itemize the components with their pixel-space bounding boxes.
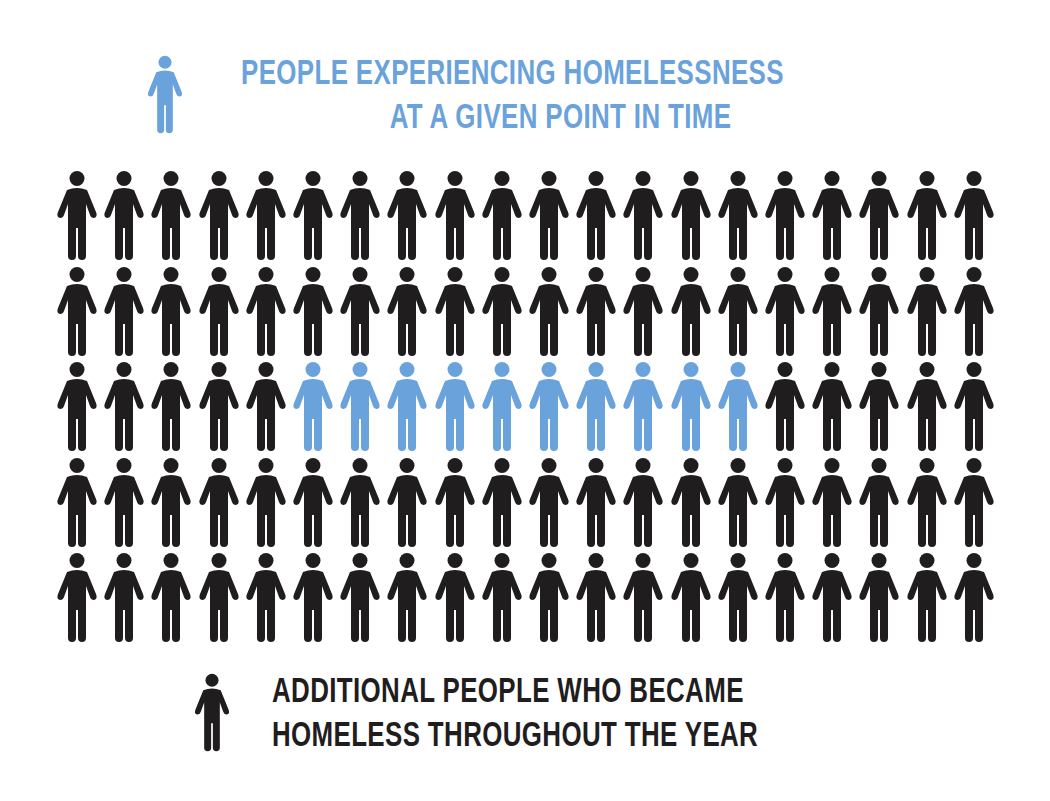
legend-point-in-time-label: PEOPLE EXPERIENCING HOMELESSNESS AT A GI…: [241, 50, 784, 138]
legend-bottom-line-2: HOMELESS THROUGHOUT THE YEAR: [272, 712, 758, 756]
person-icon-additional: [904, 552, 950, 642]
person-icon-additional: [54, 457, 100, 547]
legend-additional: ADDITIONAL PEOPLE WHO BECAME HOMELESS TH…: [192, 668, 929, 756]
person-icon-additional: [101, 266, 147, 356]
person-icon-additional: [479, 266, 525, 356]
person-icon-additional: [290, 457, 336, 547]
person-icon-additional: [809, 552, 855, 642]
pictogram-row: [54, 361, 1000, 451]
person-icon-additional: [290, 552, 336, 642]
pictogram-row: [54, 266, 1000, 356]
legend-additional-label: ADDITIONAL PEOPLE WHO BECAME HOMELESS TH…: [272, 668, 758, 756]
person-icon-point-in-time: [526, 361, 572, 451]
person-icon-blue-svg: [145, 51, 185, 137]
person-icon-additional: [526, 457, 572, 547]
person-icon: [192, 669, 232, 755]
person-icon-additional: [668, 457, 714, 547]
person-icon-additional: [573, 552, 619, 642]
person-icon-additional: [668, 170, 714, 260]
person-icon-additional: [479, 552, 525, 642]
person-icon-additional: [951, 457, 997, 547]
person-icon-additional: [762, 457, 808, 547]
person-icon-additional: [856, 457, 902, 547]
pictogram-row: [54, 170, 1000, 260]
legend-point-in-time: PEOPLE EXPERIENCING HOMELESSNESS AT A GI…: [145, 50, 975, 138]
person-icon-additional: [54, 170, 100, 260]
person-icon-additional: [809, 361, 855, 451]
pictogram-row: [54, 552, 1000, 642]
person-icon-additional: [290, 266, 336, 356]
person-icon-additional: [762, 361, 808, 451]
person-icon-point-in-time: [668, 361, 714, 451]
person-icon-additional: [856, 361, 902, 451]
person-icon-additional: [762, 552, 808, 642]
person-icon-additional: [856, 266, 902, 356]
person-icon-point-in-time: [479, 361, 525, 451]
person-icon-additional: [432, 170, 478, 260]
person-icon-additional: [951, 361, 997, 451]
person-icon-additional: [951, 266, 997, 356]
person-icon-additional: [384, 457, 430, 547]
person-icon-additional: [432, 266, 478, 356]
person-icon-additional: [196, 457, 242, 547]
person-icon-additional: [54, 361, 100, 451]
person-icon-additional: [243, 457, 289, 547]
person-icon-additional: [809, 457, 855, 547]
person-icon-additional: [762, 170, 808, 260]
person-icon-additional: [337, 457, 383, 547]
person-icon-additional: [668, 552, 714, 642]
pictogram-row: [54, 457, 1000, 547]
person-icon-additional: [809, 170, 855, 260]
legend-top-line-2: AT A GIVEN POINT IN TIME: [241, 94, 784, 138]
person-icon-additional: [337, 266, 383, 356]
person-icon-additional: [54, 552, 100, 642]
person-icon: [145, 51, 185, 137]
person-icon-additional: [54, 266, 100, 356]
person-icon-additional: [101, 457, 147, 547]
person-icon-additional: [384, 552, 430, 642]
person-icon-additional: [243, 552, 289, 642]
person-icon-point-in-time: [573, 361, 619, 451]
pictogram-grid: [54, 170, 1000, 650]
person-icon-additional: [526, 170, 572, 260]
person-icon-additional: [715, 552, 761, 642]
person-icon-additional: [904, 457, 950, 547]
person-icon-point-in-time: [620, 361, 666, 451]
person-icon-additional: [715, 170, 761, 260]
person-icon-additional: [148, 552, 194, 642]
person-icon-additional: [668, 266, 714, 356]
person-icon-black-svg: [192, 669, 232, 755]
person-icon-additional: [620, 266, 666, 356]
person-icon-additional: [573, 266, 619, 356]
person-icon-additional: [243, 266, 289, 356]
person-icon-additional: [337, 552, 383, 642]
person-icon-additional: [951, 552, 997, 642]
person-icon-additional: [148, 170, 194, 260]
person-icon-additional: [196, 552, 242, 642]
person-icon-additional: [337, 170, 383, 260]
person-icon-additional: [290, 170, 336, 260]
person-icon-additional: [762, 266, 808, 356]
person-icon-additional: [196, 170, 242, 260]
legend-bottom-line-1: ADDITIONAL PEOPLE WHO BECAME: [272, 668, 758, 712]
person-icon-additional: [479, 170, 525, 260]
person-icon-additional: [809, 266, 855, 356]
person-icon-additional: [856, 552, 902, 642]
person-icon-additional: [951, 170, 997, 260]
legend-top-line-1: PEOPLE EXPERIENCING HOMELESSNESS: [241, 50, 784, 94]
person-icon-additional: [148, 457, 194, 547]
person-icon-additional: [196, 266, 242, 356]
person-icon-additional: [526, 552, 572, 642]
person-icon-additional: [101, 170, 147, 260]
person-icon-additional: [904, 361, 950, 451]
person-icon-additional: [196, 361, 242, 451]
person-icon-additional: [620, 457, 666, 547]
person-icon-additional: [432, 457, 478, 547]
person-icon-point-in-time: [337, 361, 383, 451]
person-icon-additional: [479, 457, 525, 547]
person-icon-additional: [384, 170, 430, 260]
person-icon-point-in-time: [290, 361, 336, 451]
person-icon-additional: [432, 552, 478, 642]
person-icon-point-in-time: [432, 361, 478, 451]
person-icon-additional: [526, 266, 572, 356]
